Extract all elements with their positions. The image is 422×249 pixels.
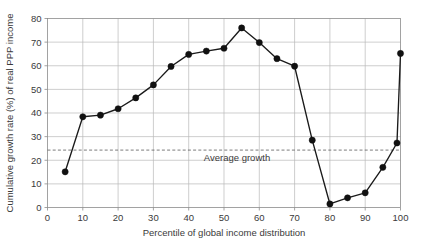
average-growth-label: Average growth xyxy=(204,152,270,163)
data-point xyxy=(256,40,262,46)
chart-background xyxy=(0,0,422,249)
y-tick-label: 30 xyxy=(31,131,42,142)
data-point xyxy=(309,137,315,143)
y-tick-label: 20 xyxy=(31,155,42,166)
data-point xyxy=(274,56,280,62)
data-point xyxy=(394,140,400,146)
y-tick-label: 70 xyxy=(31,37,42,48)
chart-container: 01020304050607080 0102030405060708090100… xyxy=(0,0,422,249)
y-tick-label: 60 xyxy=(31,60,42,71)
data-point xyxy=(133,95,139,101)
data-point xyxy=(327,201,333,207)
elephant-curve-chart: 01020304050607080 0102030405060708090100… xyxy=(0,0,422,249)
x-tick-label: 40 xyxy=(183,212,194,223)
data-point xyxy=(150,82,156,88)
data-point xyxy=(80,114,86,120)
x-tick-label: 90 xyxy=(360,212,371,223)
data-point xyxy=(203,48,209,54)
data-point xyxy=(62,169,68,175)
data-point xyxy=(362,190,368,196)
x-tick-label: 20 xyxy=(113,212,124,223)
y-tick-label: 0 xyxy=(36,202,41,213)
data-point xyxy=(168,63,174,69)
data-point xyxy=(221,45,227,51)
x-tick-label: 30 xyxy=(148,212,159,223)
y-axis-title: Cumulative growth rate (%) of real PPP i… xyxy=(4,14,15,213)
x-tick-label: 100 xyxy=(393,212,409,223)
data-point xyxy=(115,106,121,112)
x-tick-label: 80 xyxy=(325,212,336,223)
data-point xyxy=(292,63,298,69)
data-point xyxy=(186,51,192,57)
x-tick-label: 60 xyxy=(254,212,265,223)
data-point xyxy=(97,112,103,118)
x-tick-label: 70 xyxy=(289,212,300,223)
x-tick-label: 50 xyxy=(219,212,230,223)
x-tick-label: 0 xyxy=(45,212,50,223)
y-tick-label: 40 xyxy=(31,107,42,118)
y-tick-label: 50 xyxy=(31,84,42,95)
data-point xyxy=(239,25,245,31)
x-tick-label: 10 xyxy=(78,212,89,223)
y-tick-label: 10 xyxy=(31,178,42,189)
data-point xyxy=(344,195,350,201)
data-point xyxy=(397,50,403,56)
x-axis-title: Percentile of global income distribution xyxy=(143,227,306,238)
y-tick-label: 80 xyxy=(31,13,42,24)
data-point xyxy=(380,164,386,170)
